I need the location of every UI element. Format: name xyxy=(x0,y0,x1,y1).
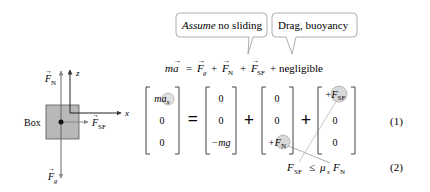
svg-text:SF: SF xyxy=(257,69,265,77)
svg-text:→: → xyxy=(173,56,181,65)
svg-text:F: F xyxy=(286,161,294,173)
friction-row2: 0 xyxy=(333,115,338,126)
callout-assume-no-sliding: Assume no sliding xyxy=(176,13,267,54)
box-label: Box xyxy=(24,117,41,128)
equation-number-2: (2) xyxy=(390,161,403,174)
svg-text:→: → xyxy=(251,56,259,65)
svg-text:+: + xyxy=(211,62,217,74)
normal-row2: 0 xyxy=(275,115,280,126)
callout-assume-italic: Assume xyxy=(181,19,216,31)
friction-row3: 0 xyxy=(333,137,338,148)
center-of-mass-dot xyxy=(59,120,64,125)
lhs-row3: 0 xyxy=(160,137,165,148)
svg-text:s: s xyxy=(327,168,330,176)
z-axis-label: z xyxy=(75,68,80,78)
svg-text:N: N xyxy=(340,168,345,176)
svg-text:SF: SF xyxy=(294,168,302,176)
gravity-row3: −mg xyxy=(212,137,231,148)
eq-equals: = xyxy=(186,62,192,74)
matrix-equals: = xyxy=(188,109,198,129)
physics-diagram: Assume no sliding Drag, buoyancy ma → = … xyxy=(0,0,430,192)
svg-text:μ: μ xyxy=(319,161,326,173)
svg-text:→: → xyxy=(48,165,55,173)
lhs-row2: 0 xyxy=(160,115,165,126)
friction-constraint: F SF ≤ μ s F N xyxy=(286,161,345,176)
svg-text:N: N xyxy=(228,69,233,77)
matrix-plus-2: + xyxy=(301,110,311,130)
svg-text:F: F xyxy=(332,161,340,173)
svg-text:Assume no sliding: Assume no sliding xyxy=(181,19,263,31)
callout-drag-buoyancy: Drag, buoyancy xyxy=(272,13,357,54)
gravity-row1: 0 xyxy=(219,93,224,104)
svg-text:→: → xyxy=(92,111,99,119)
svg-text:g: g xyxy=(203,69,207,77)
svg-text:+: + xyxy=(240,62,246,74)
gravity-row2: 0 xyxy=(219,115,224,126)
matrix-plus-1: + xyxy=(244,110,254,130)
svg-text:→: → xyxy=(45,67,52,75)
eq-tail: + negligible xyxy=(270,62,323,74)
svg-text:N: N xyxy=(51,79,56,87)
svg-text:SF: SF xyxy=(98,123,106,131)
x-axis-label: x xyxy=(124,108,129,118)
newton-second-law-equation: ma → = F → g + F → N + F → SF + negligib… xyxy=(165,56,323,77)
callout-assume-rest: no sliding xyxy=(216,19,263,31)
callout-drag-text: Drag, buoyancy xyxy=(278,19,349,31)
svg-text:→: → xyxy=(197,56,205,65)
free-body-diagram: Box F → N z x F → SF F → g xyxy=(24,67,129,185)
equation-number-1: (1) xyxy=(390,115,403,128)
svg-text:g: g xyxy=(54,177,58,185)
svg-text:→: → xyxy=(222,56,230,65)
normal-row1: 0 xyxy=(275,93,280,104)
svg-text:≤: ≤ xyxy=(309,161,315,173)
